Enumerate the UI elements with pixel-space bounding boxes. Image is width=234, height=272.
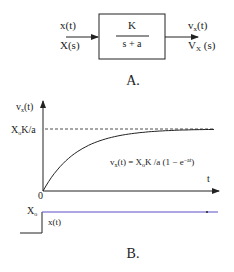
input-laplace-label: X(s) (60, 39, 80, 52)
asymptote-label: XoK/a (11, 124, 36, 136)
input-time-label: x(t) (60, 19, 76, 32)
origin-label: 0 (38, 190, 43, 201)
step-input-label: x(t) (48, 217, 61, 227)
diagram-a: x(t) X(s) K s + a vx(t) VX (s) A. (60, 14, 216, 88)
transfer-denominator: s + a (123, 38, 143, 49)
step-level-label: Xo (27, 205, 37, 217)
diagram-b: vx(t) 0 t XoK/a vx(t) = XoK /a (1 − e−at… (11, 101, 219, 261)
output-time-label: vx(t) (188, 19, 208, 33)
caption-a: A. (126, 73, 140, 88)
block-diagram-figure: x(t) X(s) K s + a vx(t) VX (s) A. vx(t) … (0, 0, 234, 272)
x-axis-label: t (207, 173, 210, 184)
y-axis-label: vx(t) (16, 101, 33, 113)
output-laplace-label: VX (s) (188, 39, 216, 53)
response-equation: vx(t) = XoK /a (1 − e−at) (110, 157, 194, 168)
step-input-dot (206, 211, 208, 213)
caption-b: B. (127, 246, 140, 261)
transfer-numerator: K (128, 19, 136, 31)
